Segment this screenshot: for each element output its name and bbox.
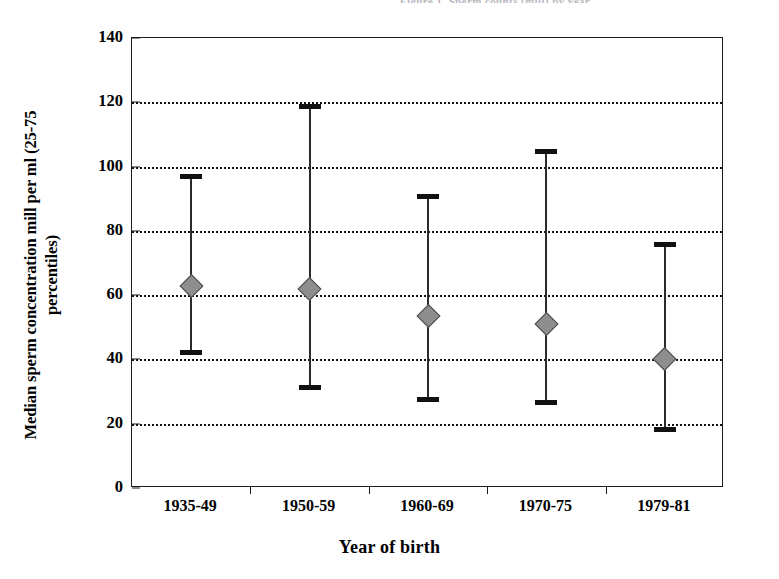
x-tick-label-1979-81: 1979-81 <box>594 497 734 515</box>
y-tick-label-100: 100 <box>63 156 123 176</box>
error-bar-cap-lower <box>654 427 676 432</box>
y-tick-label-40: 40 <box>63 348 123 368</box>
median-marker[interactable] <box>653 347 677 371</box>
y-tick-label-20: 20 <box>63 413 123 433</box>
x-axis-title: Year of birth <box>0 537 779 558</box>
y-tick-mark-100 <box>132 166 140 167</box>
chart-figure: Figure 1. Sperm counts (mill) by year Me… <box>0 0 779 579</box>
error-bar-cap-upper <box>654 242 676 247</box>
x-tick-mark-1960-69 <box>487 486 488 494</box>
median-marker[interactable] <box>179 273 203 297</box>
y-tick-mark-140 <box>132 38 140 39</box>
y-tick-mark-20 <box>132 423 140 424</box>
y-tick-label-60: 60 <box>63 284 123 304</box>
y-axis-title: Median sperm concentration mill per ml (… <box>20 30 60 520</box>
x-tick-mark-1970-75 <box>606 486 607 494</box>
grid-line-20 <box>132 424 722 426</box>
x-tick-mark-1950-59 <box>369 486 370 494</box>
y-tick-mark-120 <box>132 102 140 103</box>
y-tick-mark-80 <box>132 230 140 231</box>
y-tick-label-120: 120 <box>63 91 123 111</box>
error-bar-cap-lower <box>417 397 439 402</box>
error-bar-cap-upper <box>180 174 202 179</box>
error-bar-line <box>427 196 429 400</box>
median-marker[interactable] <box>534 312 558 336</box>
median-marker[interactable] <box>416 304 440 328</box>
y-tick-mark-40 <box>132 359 140 360</box>
error-bar-cap-lower <box>299 385 321 390</box>
y-axis-title-line-2: percentiles) <box>41 30 62 520</box>
error-bar-cap-upper <box>417 194 439 199</box>
error-bar-cap-upper <box>535 149 557 154</box>
top-caption: Figure 1. Sperm counts (mill) by year <box>330 0 660 3</box>
error-bar-line <box>664 244 666 430</box>
y-tick-mark-0 <box>132 488 140 489</box>
y-tick-label-140: 140 <box>63 27 123 47</box>
error-bar-line <box>190 176 192 353</box>
error-bar-line <box>545 151 547 403</box>
plot-area <box>131 37 723 487</box>
error-bar-cap-lower <box>180 350 202 355</box>
y-tick-label-80: 80 <box>63 220 123 240</box>
grid-line-120 <box>132 102 722 104</box>
y-axis-title-line-1: Median sperm concentration mill per ml (… <box>20 30 41 520</box>
x-tick-mark-1935-49 <box>250 486 251 494</box>
error-bar-cap-upper <box>299 104 321 109</box>
error-bar-line <box>309 106 311 389</box>
error-bar-cap-lower <box>535 400 557 405</box>
grid-line-100 <box>132 167 722 169</box>
y-tick-mark-60 <box>132 295 140 296</box>
y-tick-label-0: 0 <box>63 477 123 497</box>
